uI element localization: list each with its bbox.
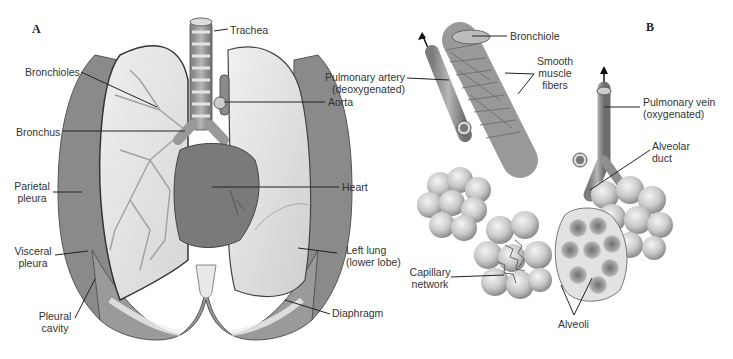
label-smooth-muscle-fibers: Smooth muscle fibers: [535, 55, 575, 91]
panel-letter-b: B: [646, 20, 654, 35]
label-pulmonary-vein-line1: Pulmonary vein: [643, 96, 715, 108]
label-alveoli: Alveoli: [558, 318, 589, 330]
label-left-lung-line1: Left lung: [346, 244, 401, 256]
label-heart: Heart: [342, 181, 368, 193]
label-smooth-muscle-line1: Smooth: [535, 55, 575, 67]
label-visceral-pleura-line2: pleura: [12, 257, 54, 269]
label-pulmonary-artery-line2: (deoxygenated): [320, 83, 405, 95]
alveoli-cross-section: [555, 208, 627, 301]
thorax-figure: [58, 18, 352, 340]
label-capillary-network: Capillary network: [408, 266, 452, 290]
label-alveolar-duct: Alveolar duct: [652, 140, 690, 164]
label-diaphragm: Diaphragm: [332, 307, 383, 319]
label-capillary-line1: Capillary: [408, 266, 452, 278]
label-smooth-muscle-line3: fibers: [535, 79, 575, 91]
label-alveolar-duct-line2: duct: [652, 152, 690, 164]
panel-letter-a: A: [32, 22, 41, 37]
label-visceral-pleura-line1: Visceral: [12, 245, 54, 257]
label-pleural-cavity-line1: Pleural: [36, 310, 74, 322]
label-pulmonary-artery-line1: Pulmonary artery: [320, 71, 405, 83]
label-pleural-cavity-line2: cavity: [36, 322, 74, 334]
label-parietal-pleura: Parietal pleura: [12, 180, 52, 204]
label-pulmonary-vein: Pulmonary vein (oxygenated): [643, 96, 715, 120]
respiratory-illustration: [0, 0, 733, 359]
label-bronchus: Bronchus: [16, 126, 60, 138]
label-smooth-muscle-line2: muscle: [535, 67, 575, 79]
label-pulmonary-vein-line2: (oxygenated): [643, 108, 715, 120]
label-aorta: Aorta: [328, 96, 353, 108]
alveolar-sac-left: [417, 167, 491, 241]
label-visceral-pleura: Visceral pleura: [12, 245, 54, 269]
label-left-lung: Left lung (lower lobe): [346, 244, 401, 268]
label-alveolar-duct-line1: Alveolar: [652, 140, 690, 152]
label-parietal-pleura-line1: Parietal: [12, 180, 52, 192]
label-bronchioles: Bronchioles: [25, 66, 80, 78]
label-trachea: Trachea: [230, 24, 268, 36]
label-pulmonary-artery: Pulmonary artery (deoxygenated): [320, 71, 405, 95]
label-bronchiole: Bronchiole: [510, 30, 560, 42]
label-capillary-line2: network: [408, 278, 452, 290]
label-left-lung-line2: (lower lobe): [346, 256, 401, 268]
alveolar-sac-capillary: [474, 211, 552, 299]
label-pleural-cavity: Pleural cavity: [36, 310, 74, 334]
label-parietal-pleura-line2: pleura: [12, 192, 52, 204]
